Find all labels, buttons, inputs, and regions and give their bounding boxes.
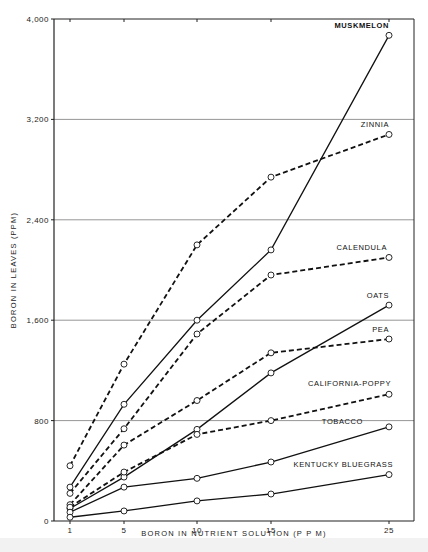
data-point (121, 426, 127, 432)
data-point (268, 459, 274, 465)
data-point (194, 431, 200, 437)
grid-lines (54, 119, 414, 420)
y-tick-label: 0 (44, 517, 49, 526)
series-california-poppy (67, 391, 392, 510)
x-tick-label: 5 (122, 526, 127, 535)
series-line (70, 427, 389, 512)
series-oats (67, 302, 392, 511)
data-point (194, 242, 200, 248)
y-tick-label: 4,000 (26, 15, 49, 24)
data-point (268, 272, 274, 278)
series-line (70, 257, 389, 493)
data-point (194, 498, 200, 504)
footer-band (0, 538, 428, 552)
series-label: OATS (367, 291, 389, 300)
x-tick-label: 25 (384, 526, 394, 535)
data-point (121, 508, 127, 514)
x-axis-title: BORON IN NUTRIENT SOLUTION (P P M) (141, 529, 326, 538)
data-point (268, 247, 274, 253)
data-point (194, 398, 200, 404)
series-label: KENTUCKY BLUEGRASS (294, 460, 393, 469)
data-point (386, 472, 392, 478)
series-label: MUSKMELON (334, 21, 389, 30)
data-point (386, 391, 392, 397)
data-point (386, 32, 392, 38)
axes (54, 19, 414, 521)
chart-canvas: 08001,6002,4003,2004,000 15101525 MUSKME… (0, 0, 428, 552)
series-kentucky-bluegrass (67, 472, 392, 521)
data-point (121, 484, 127, 490)
y-axis-title: BORON IN LEAVES (PPM) (9, 212, 18, 328)
series-label: ZINNIA (361, 120, 389, 129)
data-point (194, 475, 200, 481)
series-label: CALIFORNIA-POPPY (308, 379, 391, 388)
series-lines (67, 32, 392, 520)
data-point (268, 350, 274, 356)
series-line (70, 305, 389, 508)
y-tick-label: 3,200 (26, 115, 49, 124)
data-point (67, 484, 73, 490)
x-axis-ticks: 15101525 (68, 19, 394, 535)
data-point (121, 442, 127, 448)
data-point (194, 317, 200, 323)
data-point (268, 491, 274, 497)
data-point (67, 463, 73, 469)
data-point (268, 418, 274, 424)
y-axis-ticks: 08001,6002,4003,2004,000 (26, 15, 54, 526)
data-point (121, 469, 127, 475)
data-point (67, 490, 73, 496)
series-labels: MUSKMELONZINNIACALENDULAOATSPEACALIFORNI… (294, 21, 393, 468)
data-point (386, 302, 392, 308)
data-point (121, 361, 127, 367)
series-label: PEA (372, 325, 389, 334)
series-label: CALENDULA (337, 243, 387, 252)
data-point (268, 370, 274, 376)
y-tick-label: 1,600 (26, 316, 49, 325)
y-tick-label: 800 (34, 417, 49, 426)
data-point (386, 254, 392, 260)
data-point (386, 131, 392, 137)
y-tick-label: 2,400 (26, 216, 49, 225)
data-point (194, 331, 200, 337)
data-point (121, 401, 127, 407)
series-label: TOBACCO (322, 417, 363, 426)
data-point (268, 174, 274, 180)
data-point (386, 336, 392, 342)
data-point (386, 424, 392, 430)
data-point (67, 514, 73, 520)
x-tick-label: 1 (68, 526, 73, 535)
